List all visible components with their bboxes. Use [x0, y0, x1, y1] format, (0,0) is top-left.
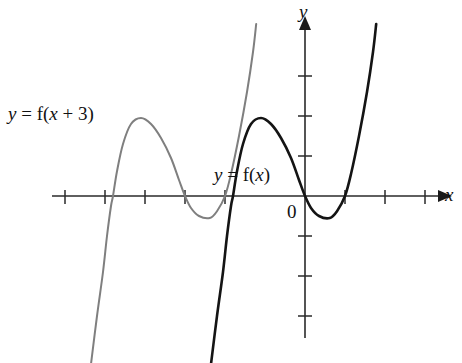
- x-axis-label: x: [445, 185, 453, 204]
- label-original-x: x: [255, 164, 263, 185]
- origin-label: 0: [287, 202, 297, 221]
- label-original-f: f(: [243, 164, 256, 185]
- curve-y-equals-f-of-x: [211, 24, 376, 363]
- label-original-curve: y = f(x): [214, 165, 270, 184]
- label-shifted-tail: + 3): [58, 103, 94, 124]
- label-original-tail: ): [264, 164, 270, 185]
- label-shifted-f: f(: [37, 103, 50, 124]
- y-axis-label: y: [299, 2, 307, 21]
- curve-y-equals-f-of-x-plus-3: [91, 24, 256, 363]
- graph-figure: y = f(x + 3) y = f(x) y x 0: [0, 0, 462, 363]
- label-shifted-x: x: [49, 103, 57, 124]
- label-shifted-curve: y = f(x + 3): [8, 104, 94, 123]
- label-shifted-equals: =: [16, 103, 36, 124]
- label-original-equals: =: [222, 164, 242, 185]
- x-axis-ticks: [65, 190, 425, 204]
